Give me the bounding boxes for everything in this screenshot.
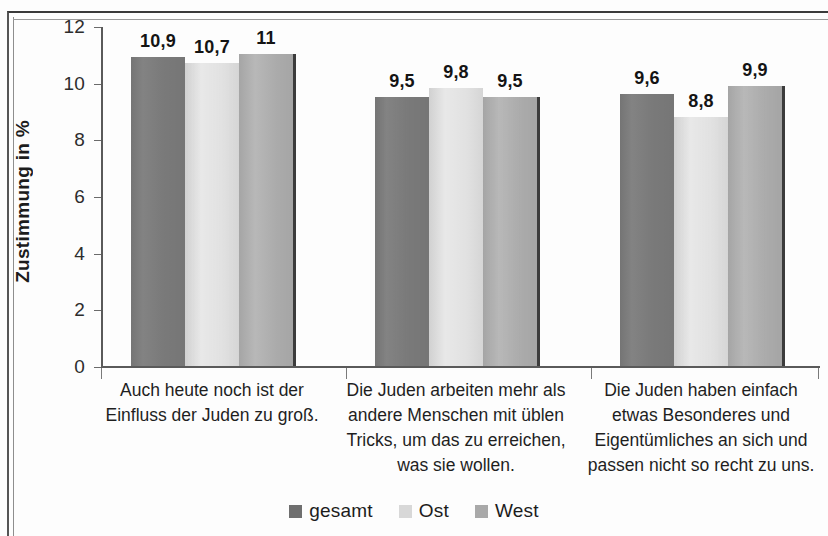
bar-value-label: 9,8 <box>443 62 469 83</box>
legend-label: gesamt <box>309 500 373 522</box>
bar-gesamt-0: 10,9 <box>131 57 185 366</box>
bar-value-label: 10,7 <box>194 37 230 58</box>
y-tick-label: 0 <box>74 356 85 378</box>
category-label-2: Die Juden haben einfach etwas Besonderes… <box>576 378 826 478</box>
y-tick-label: 12 <box>63 16 85 38</box>
bar-fill <box>728 86 782 367</box>
y-tick: 4 <box>94 254 101 255</box>
legend-item-west[interactable]: West <box>475 500 539 522</box>
legend-label: Ost <box>419 500 449 522</box>
chart-legend: gesamtOstWest <box>0 500 828 522</box>
bar-fill <box>239 54 293 366</box>
legend-swatch-icon <box>475 505 488 518</box>
y-tick: 8 <box>94 140 101 141</box>
y-tick: 2 <box>94 310 101 311</box>
bar-fill <box>375 97 429 366</box>
bar-value-label: 9,5 <box>497 71 523 92</box>
y-tick-label: 6 <box>74 186 85 208</box>
bar-value-label: 11 <box>256 28 275 49</box>
bar-west-0: 11 <box>239 54 293 366</box>
legend-item-ost[interactable]: Ost <box>399 500 449 522</box>
plot-area: 024681012 10,910,7119,59,89,59,68,89,9 <box>101 27 820 367</box>
bar-gesamt-2: 9,6 <box>620 94 674 366</box>
bar-ost-2: 8,8 <box>674 117 728 366</box>
y-tick: 6 <box>94 197 101 198</box>
y-tick: 12 <box>94 27 101 28</box>
legend-label: West <box>495 500 539 522</box>
bar-west-1: 9,5 <box>483 97 537 366</box>
category-label-1: Die Juden arbeiten mehr als andere Mensc… <box>331 378 581 478</box>
bar-fill <box>131 57 185 366</box>
bar-value-label: 9,6 <box>634 68 660 89</box>
bar-ost-0: 10,7 <box>185 63 239 366</box>
bar-fill <box>620 94 674 366</box>
bar-fill <box>483 97 537 366</box>
page-frame-top-rule <box>13 19 828 20</box>
y-axis-title: Zustimmung in % <box>12 120 34 283</box>
bar-value-label: 10,9 <box>140 31 176 52</box>
legend-item-gesamt[interactable]: gesamt <box>289 500 373 522</box>
y-tick-label: 10 <box>63 73 85 95</box>
y-tick-label: 4 <box>74 243 85 265</box>
category-label-0: Auch heute noch ist der Einfluss der Jud… <box>87 378 337 428</box>
y-tick-label: 8 <box>74 129 85 151</box>
bar-ost-1: 9,8 <box>429 88 483 366</box>
bar-value-label: 9,5 <box>389 71 415 92</box>
bar-gesamt-1: 9,5 <box>375 97 429 366</box>
bar-fill <box>674 117 728 366</box>
legend-swatch-icon <box>399 505 412 518</box>
bar-value-label: 8,8 <box>688 91 714 112</box>
chart-page: Zustimmung in % 024681012 10,910,7119,59… <box>0 0 828 536</box>
bar-fill <box>429 88 483 366</box>
y-axis-line <box>101 27 103 367</box>
x-axis-line <box>101 366 820 368</box>
bar-fill <box>185 63 239 366</box>
y-tick-label: 2 <box>74 299 85 321</box>
y-tick: 10 <box>94 84 101 85</box>
y-tick: 0 <box>94 367 101 368</box>
legend-swatch-icon <box>289 505 302 518</box>
bar-value-label: 9,9 <box>742 60 768 81</box>
bar-west-2: 9,9 <box>728 86 782 367</box>
